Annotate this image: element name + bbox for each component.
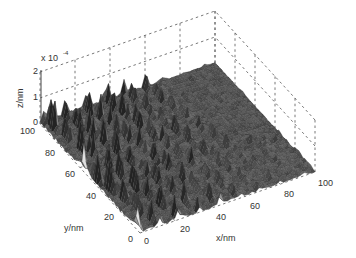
y-tick-40: 40 (86, 191, 96, 201)
x-tick-20: 20 (180, 224, 190, 234)
z-tick-2: 2 (33, 66, 38, 76)
z-ticks: 0 1 2 (33, 66, 38, 127)
y-tick-100: 100 (20, 126, 35, 136)
x-tick-100: 100 (318, 178, 333, 188)
z-scale-prefix: x 10 (41, 53, 58, 63)
x-axis-label: x/nm (216, 233, 236, 243)
y-tick-0: 0 (128, 234, 133, 244)
y-tick-60: 60 (65, 169, 75, 179)
x-tick-60: 60 (250, 201, 260, 211)
x-tick-40: 40 (216, 212, 226, 222)
x-tick-80: 80 (284, 189, 294, 199)
x-tick-0: 0 (144, 236, 149, 246)
surface-mesh (40, 63, 315, 232)
surface-plot: 0 1 2 x 10 -4 z/nm 100 80 60 40 20 0 y/n… (0, 0, 356, 258)
y-tick-80: 80 (45, 148, 55, 158)
z-scale-exponent: -4 (63, 50, 69, 56)
z-axis-label: z/nm (15, 88, 25, 108)
z-tick-1: 1 (33, 92, 38, 102)
y-tick-20: 20 (104, 212, 114, 222)
y-axis-label: y/nm (64, 223, 84, 233)
z-scale-factor: x 10 -4 (41, 50, 69, 63)
